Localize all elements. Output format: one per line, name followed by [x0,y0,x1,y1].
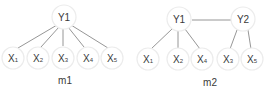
svg-text:Y1: Y1 [173,14,186,25]
edge-m2-y2-x5 [248,30,251,49]
node-m2-x3: X3 [217,48,239,70]
edge-m1-y1-x5 [71,25,108,48]
model-m1: Y1 X1 X2 X3 X4 X5 m1 [2,5,123,86]
node-m2-x1: X1 [137,48,159,70]
edge-m1-y1-x4 [68,27,84,47]
node-m2-y2: Y2 [231,7,255,31]
node-m1-x5: X5 [101,47,123,69]
node-m2-x4: X4 [191,48,213,70]
node-m1-x2: X2 [27,47,49,69]
model-label-m2: m2 [203,77,217,88]
edge-m1-y1-x1 [18,25,57,48]
model-m2: Y1 Y2 X1 X2 X4 X3 X5 m2 [137,7,263,88]
svg-text:Y1: Y1 [58,12,71,23]
edge-m1-y1-x2 [41,27,59,47]
node-m1-x4: X4 [77,47,99,69]
node-m1-y1: Y1 [52,5,76,29]
diagram-canvas: Y1 X1 X2 X3 X4 X5 m1 [0,0,265,89]
edge-m2-y2-x3 [230,30,237,49]
node-m2-x5: X5 [241,48,263,70]
model-label-m1: m1 [58,75,72,86]
node-m1-x3: X3 [52,47,74,69]
node-m2-x2: X2 [167,48,189,70]
node-m1-x1: X1 [2,47,24,69]
node-m2-y1: Y1 [167,7,191,31]
edge-m2-y1-x1 [151,29,172,49]
svg-text:Y2: Y2 [237,14,250,25]
edge-m2-y1-x4 [185,29,200,49]
